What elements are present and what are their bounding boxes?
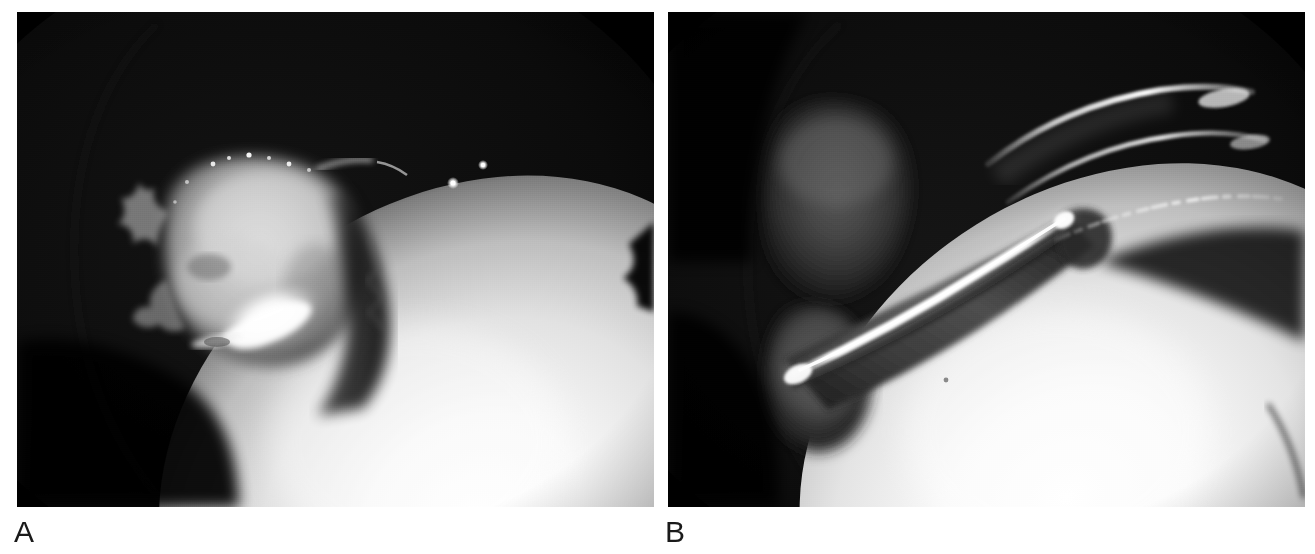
panel-label-b: B (665, 517, 685, 547)
tissue-surface-groove-a (187, 254, 231, 280)
convex-surface-speck-b (944, 378, 949, 383)
panel-b-image (668, 12, 1305, 507)
panel-b-canvas (668, 12, 1305, 507)
panel-a-image (17, 12, 654, 507)
figure-root: A B (0, 0, 1315, 554)
panel-a-canvas (17, 12, 654, 507)
panel-label-a: A (14, 517, 34, 547)
